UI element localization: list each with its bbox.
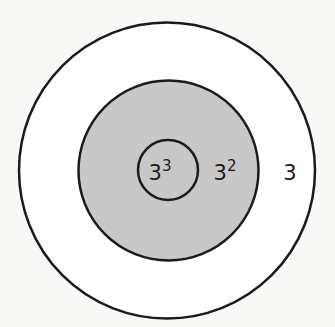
concentric-circles-diagram: 33 32 3 — [0, 0, 335, 327]
outer-label: 3 — [283, 161, 296, 185]
diagram-canvas: 33 32 3 — [0, 0, 335, 327]
